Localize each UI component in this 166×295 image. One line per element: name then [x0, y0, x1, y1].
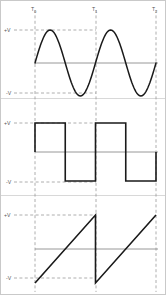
waveform-svg: T0 T1 T2 +V -V +V -V +V -V — [0, 0, 166, 295]
tick-label-square-plus-v: +V — [4, 120, 11, 126]
tick-label-sine-plus-v: +V — [4, 27, 11, 33]
figure-border — [1, 1, 166, 295]
tick-label-sawtooth-plus-v: +V — [4, 212, 11, 218]
tick-label-square-minus-v: -V — [6, 179, 12, 185]
waveform-figure: T0 T1 T2 +V -V +V -V +V -V — [0, 0, 166, 295]
tick-label-sine-minus-v: -V — [6, 90, 12, 96]
tick-label-sawtooth-minus-v: -V — [6, 275, 12, 281]
